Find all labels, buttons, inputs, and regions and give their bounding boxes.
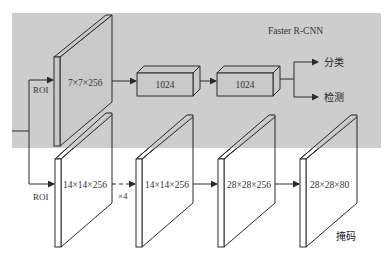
fc1-label: 1024 (156, 80, 175, 90)
roi-top-label: ROI (33, 85, 49, 95)
panel-title: Faster R-CNN (268, 26, 323, 36)
classification-output-label: 分类 (324, 56, 344, 68)
mask-map-2-label: 14×14×256 (145, 180, 189, 190)
mask-rcnn-head-diagram: Faster R-CNN 7×7×256 ROI ROI 1024 1024 分… (0, 0, 385, 259)
mask-output-label: 掩码 (336, 230, 356, 242)
mask-map-3-label: 28×28×256 (227, 180, 271, 190)
detection-output-label: 检测 (324, 91, 344, 103)
repeat-x4-label: ×4 (118, 191, 128, 201)
roi-feature-map-label: 7×7×256 (68, 78, 103, 88)
roi-bottom-label: ROI (33, 192, 49, 202)
fc2-label: 1024 (236, 80, 255, 90)
mask-map-4-label: 28×28×80 (310, 180, 349, 190)
mask-map-1-label: 14×14×256 (63, 180, 107, 190)
